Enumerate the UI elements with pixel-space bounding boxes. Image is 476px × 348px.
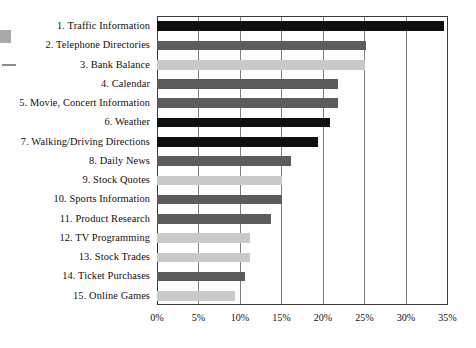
bar — [157, 41, 366, 51]
bar — [157, 272, 245, 282]
bar-row: 7. Walking/Driving Directions — [0, 132, 476, 151]
bar-label: 8. Daily News — [0, 151, 150, 170]
bar-row: 6. Weather — [0, 112, 476, 131]
bar-label: 12. TV Programming — [0, 228, 150, 247]
bar-label: 10. Sports Information — [0, 189, 150, 208]
x-tick-label: 30% — [386, 312, 426, 323]
bar — [157, 98, 338, 108]
x-tick-label: 35% — [428, 312, 468, 323]
bar-row: 3. Bank Balance — [0, 55, 476, 74]
bar — [157, 195, 282, 205]
bar-rows: 1. Traffic Information2. Telephone Direc… — [0, 16, 476, 305]
x-tick-label: 10% — [220, 312, 260, 323]
bar — [157, 214, 271, 224]
bar — [157, 79, 338, 89]
bar-label: 6. Weather — [0, 112, 150, 131]
bar — [157, 118, 330, 128]
bar-row: 14. Ticket Purchases — [0, 266, 476, 285]
bar-row: 9. Stock Quotes — [0, 170, 476, 189]
bar-row: 5. Movie, Concert Information — [0, 93, 476, 112]
x-tick-label: 0% — [137, 312, 177, 323]
bar-label: 13. Stock Trades — [0, 247, 150, 266]
bar — [157, 253, 250, 263]
x-tick-label: 5% — [179, 312, 219, 323]
x-tick-label: 20% — [303, 312, 343, 323]
x-tick-label: 15% — [262, 312, 302, 323]
bar-label: 1. Traffic Information — [0, 16, 150, 35]
bar-row: 13. Stock Trades — [0, 247, 476, 266]
bar-row: 8. Daily News — [0, 151, 476, 170]
bar-label: 2. Telephone Directories — [0, 35, 150, 54]
bar-row: 1. Traffic Information — [0, 16, 476, 35]
bar-row: 15. Online Games — [0, 286, 476, 305]
bar — [157, 21, 444, 31]
bar — [157, 60, 365, 70]
x-tick-label: 25% — [345, 312, 385, 323]
bar-row: 4. Calendar — [0, 74, 476, 93]
bar-label: 14. Ticket Purchases — [0, 266, 150, 285]
bar — [157, 137, 318, 147]
bar-row: 10. Sports Information — [0, 189, 476, 208]
chart-page: 1. Traffic Information2. Telephone Direc… — [0, 0, 476, 348]
bar-label: 5. Movie, Concert Information — [0, 93, 150, 112]
bar — [157, 291, 235, 301]
bar-row: 12. TV Programming — [0, 228, 476, 247]
bar-label: 7. Walking/Driving Directions — [0, 132, 150, 151]
bar-label: 15. Online Games — [0, 286, 150, 305]
bar — [157, 233, 250, 243]
bar-row: 2. Telephone Directories — [0, 35, 476, 54]
bar-label: 3. Bank Balance — [0, 55, 150, 74]
x-axis-tick-labels: 0%5%10%15%20%25%30%35% — [0, 312, 476, 330]
bar — [157, 176, 282, 186]
bar-label: 4. Calendar — [0, 74, 150, 93]
bar-label: 11. Product Research — [0, 209, 150, 228]
bar-label: 9. Stock Quotes — [0, 170, 150, 189]
bar-row: 11. Product Research — [0, 209, 476, 228]
bar — [157, 156, 291, 166]
